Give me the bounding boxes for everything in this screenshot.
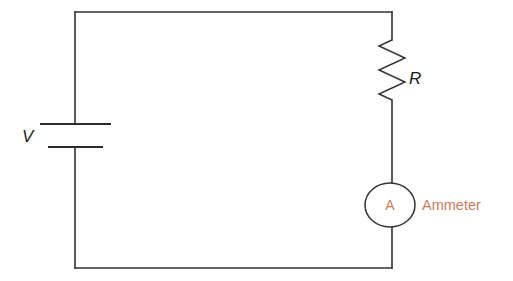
- resistor-zigzag: [379, 40, 405, 100]
- ammeter-caption: Ammeter: [422, 197, 481, 213]
- ammeter-symbol: A: [365, 183, 415, 227]
- battery-symbol: [40, 124, 111, 147]
- ammeter-letter: A: [385, 197, 395, 213]
- circuit-canvas: A V R Ammeter: [0, 0, 513, 281]
- voltage-source-label: V: [22, 127, 35, 146]
- resistor-symbol: [379, 40, 405, 100]
- circuit-diagram-figure: A V R Ammeter: [0, 0, 513, 281]
- resistor-label: R: [409, 69, 421, 88]
- circuit-wires: [75, 12, 392, 268]
